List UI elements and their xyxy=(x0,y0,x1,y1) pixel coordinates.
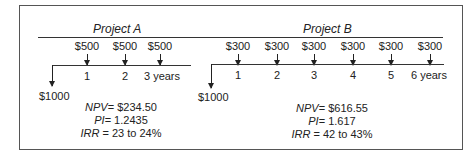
project-a-inflow-1: $500 xyxy=(75,40,99,52)
project-b-year-4: 4 xyxy=(350,69,356,81)
arrow-down-icon xyxy=(211,64,212,88)
project-b-time-axis xyxy=(211,64,444,65)
arrow-down-icon xyxy=(125,54,126,65)
project-a-header-rule xyxy=(38,37,190,38)
arrow-down-icon xyxy=(160,54,161,65)
project-a-year-1: 1 xyxy=(84,70,90,82)
project-a-time-axis xyxy=(52,65,191,66)
project-a-title: Project A xyxy=(93,22,141,36)
project-a-metrics: NPV= $234.50 PI= 1.2435 IRR = 23 to 24% xyxy=(66,101,176,140)
project-b-title: Project B xyxy=(303,22,352,36)
project-b-npv: NPV= $616.55 xyxy=(277,102,387,115)
project-a-npv: NPV= $234.50 xyxy=(66,101,176,114)
project-a-year-2: 2 xyxy=(122,70,128,82)
project-b-header-rule xyxy=(190,37,443,38)
project-b-inflow-6: $300 xyxy=(418,40,442,52)
project-b-year-6: 6 years xyxy=(411,69,447,81)
project-b-inflow-1: $300 xyxy=(226,40,250,52)
project-b-inflow-3: $300 xyxy=(302,40,326,52)
arrow-down-icon xyxy=(52,65,53,86)
project-a-inflow-2: $500 xyxy=(113,40,137,52)
project-a-irr: IRR = 23 to 24% xyxy=(66,127,176,140)
project-b-year-1: 1 xyxy=(235,69,241,81)
project-a-pi: PI= 1.2435 xyxy=(66,114,176,127)
project-b-year-5: 5 xyxy=(388,69,394,81)
project-b-year-3: 3 xyxy=(311,69,317,81)
project-b-irr: IRR = 42 to 43% xyxy=(277,128,387,141)
project-a-year-3: 3 years xyxy=(144,70,180,82)
arrow-down-icon xyxy=(87,54,88,65)
project-b-metrics: NPV= $616.55 PI= 1.617 IRR = 42 to 43% xyxy=(277,102,387,141)
project-b-inflow-2: $300 xyxy=(265,40,289,52)
project-b-year-2: 2 xyxy=(274,69,280,81)
project-b-outflow: $1000 xyxy=(198,91,229,103)
project-a-outflow: $1000 xyxy=(39,90,70,102)
project-a-inflow-3: $500 xyxy=(148,40,172,52)
project-b-inflow-5: $300 xyxy=(379,40,403,52)
project-b-pi: PI= 1.617 xyxy=(277,115,387,128)
project-b-inflow-4: $300 xyxy=(341,40,365,52)
